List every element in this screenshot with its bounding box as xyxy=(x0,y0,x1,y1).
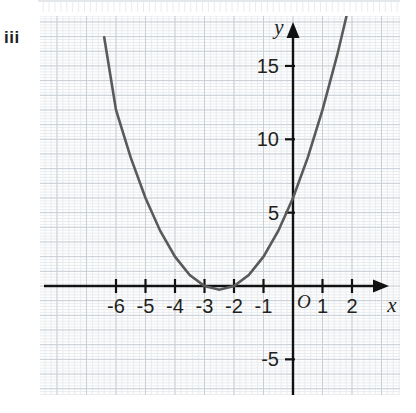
y-tick-label: -5 xyxy=(261,348,279,370)
x-tick-label: -4 xyxy=(166,295,184,317)
y-tick-label: 15 xyxy=(257,55,279,77)
x-tick-labels: -6-5-4-3-2-112 xyxy=(107,295,357,317)
x-axis-label: x xyxy=(386,293,397,317)
part-label: iii xyxy=(4,28,20,48)
plot-area: -6-5-4-3-2-112 15105-5 O x y xyxy=(40,16,400,395)
x-tick-label: -5 xyxy=(137,295,155,317)
cropped-grid-svg xyxy=(38,0,400,12)
x-tick-label: -1 xyxy=(255,295,273,317)
x-tick-label: -3 xyxy=(196,295,214,317)
x-tick-label: -6 xyxy=(107,295,125,317)
minor-gridlines xyxy=(40,16,400,395)
y-axis-label: y xyxy=(272,16,284,39)
y-tick-label: 5 xyxy=(268,202,279,224)
figure-iii: iii -6-5-4-3-2-112 15105-5 O x y xyxy=(0,0,416,413)
origin-label: O xyxy=(297,291,311,312)
x-tick-label: 1 xyxy=(317,295,328,317)
cropped-grid-strip-above xyxy=(38,0,400,12)
x-tick-label: 2 xyxy=(346,295,357,317)
x-tick-label: -2 xyxy=(225,295,243,317)
graph-svg: -6-5-4-3-2-112 15105-5 O x y xyxy=(40,16,400,395)
cropped-minor-grid xyxy=(43,2,397,12)
y-tick-label: 10 xyxy=(257,128,279,150)
